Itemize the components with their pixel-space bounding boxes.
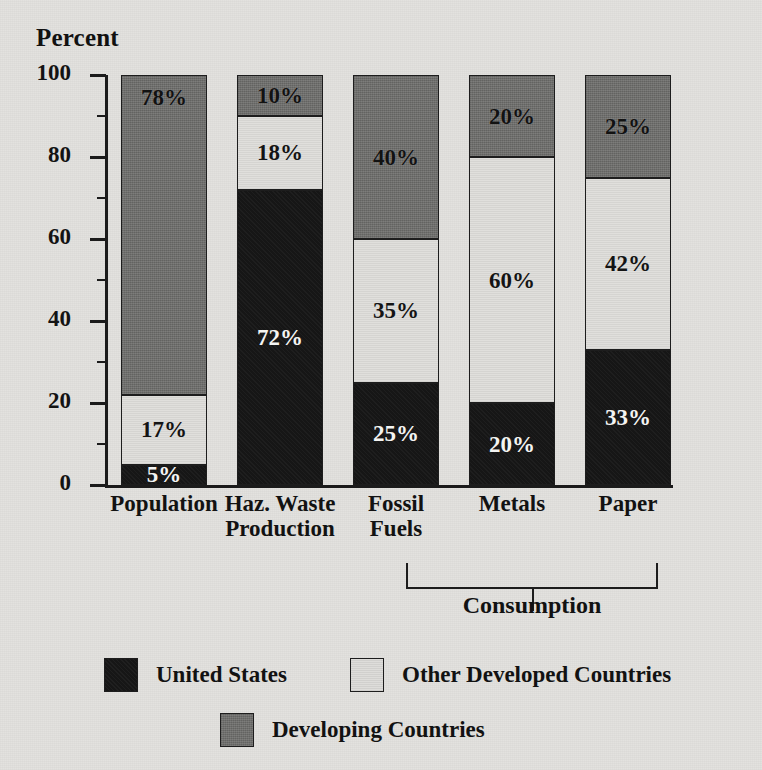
stacked-bar[interactable]: 33%42%25% xyxy=(585,75,671,485)
chart-page: Percent 020406080100 5%17%78%72%18%10%25… xyxy=(0,0,762,770)
bracket-left-tick xyxy=(406,563,408,589)
y-tick-minor xyxy=(97,279,106,281)
segment-value-label: 20% xyxy=(489,433,535,456)
bracket-right-tick xyxy=(656,563,658,589)
bar-segment[interactable]: 25% xyxy=(353,383,439,486)
bar-segment[interactable]: 20% xyxy=(469,75,555,157)
y-tick-minor xyxy=(97,361,106,363)
bar-segment[interactable]: 5% xyxy=(121,465,207,486)
legend-item-other-developed-countries: Other Developed Countries xyxy=(350,658,671,692)
bar-segment[interactable]: 25% xyxy=(585,75,671,178)
bar-segment[interactable]: 35% xyxy=(353,239,439,383)
y-tick-minor xyxy=(97,197,106,199)
segment-value-label: 5% xyxy=(147,463,182,486)
segment-value-label: 20% xyxy=(489,105,535,128)
stacked-bar[interactable]: 20%60%20% xyxy=(469,75,555,485)
segment-value-label: 25% xyxy=(373,422,419,445)
y-tick-label: 20 xyxy=(48,388,71,414)
y-tick-major: 20 xyxy=(90,402,106,405)
stacked-bar[interactable]: 72%18%10% xyxy=(237,75,323,485)
legend-label: United States xyxy=(156,662,287,688)
y-tick-major: 60 xyxy=(90,238,106,241)
bar-segment[interactable]: 42% xyxy=(585,178,671,350)
bar-segment[interactable]: 18% xyxy=(237,116,323,190)
stacked-bar[interactable]: 5%17%78% xyxy=(121,75,207,485)
y-tick-major: 100 xyxy=(90,74,106,77)
segment-value-label: 72% xyxy=(257,326,303,349)
y-tick-label: 100 xyxy=(37,60,72,86)
light-gray-swatch-icon xyxy=(350,658,384,692)
bar-segment[interactable]: 17% xyxy=(121,395,207,465)
y-tick-major: 40 xyxy=(90,320,106,323)
x-category-label: Paper xyxy=(553,492,703,517)
x-axis-line xyxy=(105,485,673,488)
stacked-bar[interactable]: 25%35%40% xyxy=(353,75,439,485)
y-tick-label: 40 xyxy=(48,306,71,332)
black-swatch-icon xyxy=(104,658,138,692)
segment-value-label: 60% xyxy=(489,269,535,292)
y-tick-label: 60 xyxy=(48,224,71,250)
legend-item-united-states: United States xyxy=(104,658,287,692)
y-axis-title: Percent xyxy=(36,24,119,52)
segment-value-label: 17% xyxy=(141,418,187,441)
plot-area: 020406080100 5%17%78%72%18%10%25%35%40%2… xyxy=(106,75,671,485)
bar-segment[interactable]: 72% xyxy=(237,190,323,485)
consumption-bracket xyxy=(406,559,658,589)
segment-value-label: 33% xyxy=(605,406,651,429)
y-tick-minor xyxy=(97,115,106,117)
bar-segment[interactable]: 33% xyxy=(585,350,671,485)
segment-value-label: 18% xyxy=(257,141,303,164)
bar-segment[interactable]: 10% xyxy=(237,75,323,116)
bar-segment[interactable]: 40% xyxy=(353,75,439,239)
y-tick-label: 80 xyxy=(48,142,71,168)
segment-value-label: 78% xyxy=(141,86,187,109)
segment-value-label: 42% xyxy=(605,252,651,275)
legend-label: Developing Countries xyxy=(272,717,485,743)
y-tick-major: 80 xyxy=(90,156,106,159)
legend-item-developing-countries: Developing Countries xyxy=(220,713,485,747)
segment-value-label: 35% xyxy=(373,299,419,322)
bar-segment[interactable]: 20% xyxy=(469,403,555,485)
y-tick-major: 0 xyxy=(90,484,106,487)
segment-value-label: 10% xyxy=(257,84,303,107)
dark-gray-swatch-icon xyxy=(220,713,254,747)
y-tick-label: 0 xyxy=(60,470,72,496)
bar-segment[interactable]: 78% xyxy=(121,75,207,395)
y-tick-minor xyxy=(97,443,106,445)
segment-value-label: 25% xyxy=(605,115,651,138)
segment-value-label: 40% xyxy=(373,146,419,169)
bar-segment[interactable]: 60% xyxy=(469,157,555,403)
legend-label: Other Developed Countries xyxy=(402,662,671,688)
bracket-label: Consumption xyxy=(406,592,658,619)
